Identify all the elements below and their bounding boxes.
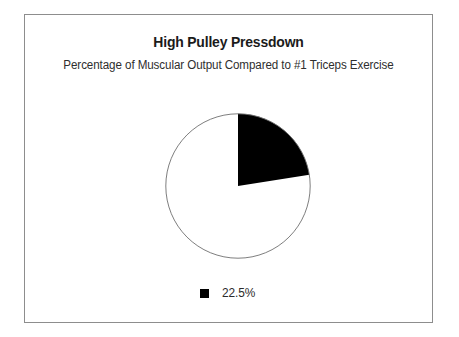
chart-legend: 22.5% (25, 286, 432, 300)
chart-subtitle: Percentage of Muscular Output Compared t… (39, 58, 418, 72)
legend-swatch-icon (200, 289, 209, 298)
legend-item: 22.5% (200, 286, 257, 300)
pie-slice-22-5 (238, 114, 309, 186)
figure-frame: High Pulley Pressdown Percentage of Musc… (24, 14, 433, 323)
pie-chart (165, 113, 311, 259)
legend-item-label: 22.5% (222, 286, 255, 300)
page-title: High Pulley Pressdown (39, 33, 418, 50)
pie-chart-svg (165, 113, 311, 259)
